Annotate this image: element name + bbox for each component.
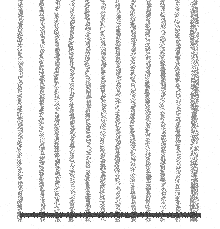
- figure-canvas: [0, 0, 220, 229]
- dithered-plot-raster: [0, 0, 220, 229]
